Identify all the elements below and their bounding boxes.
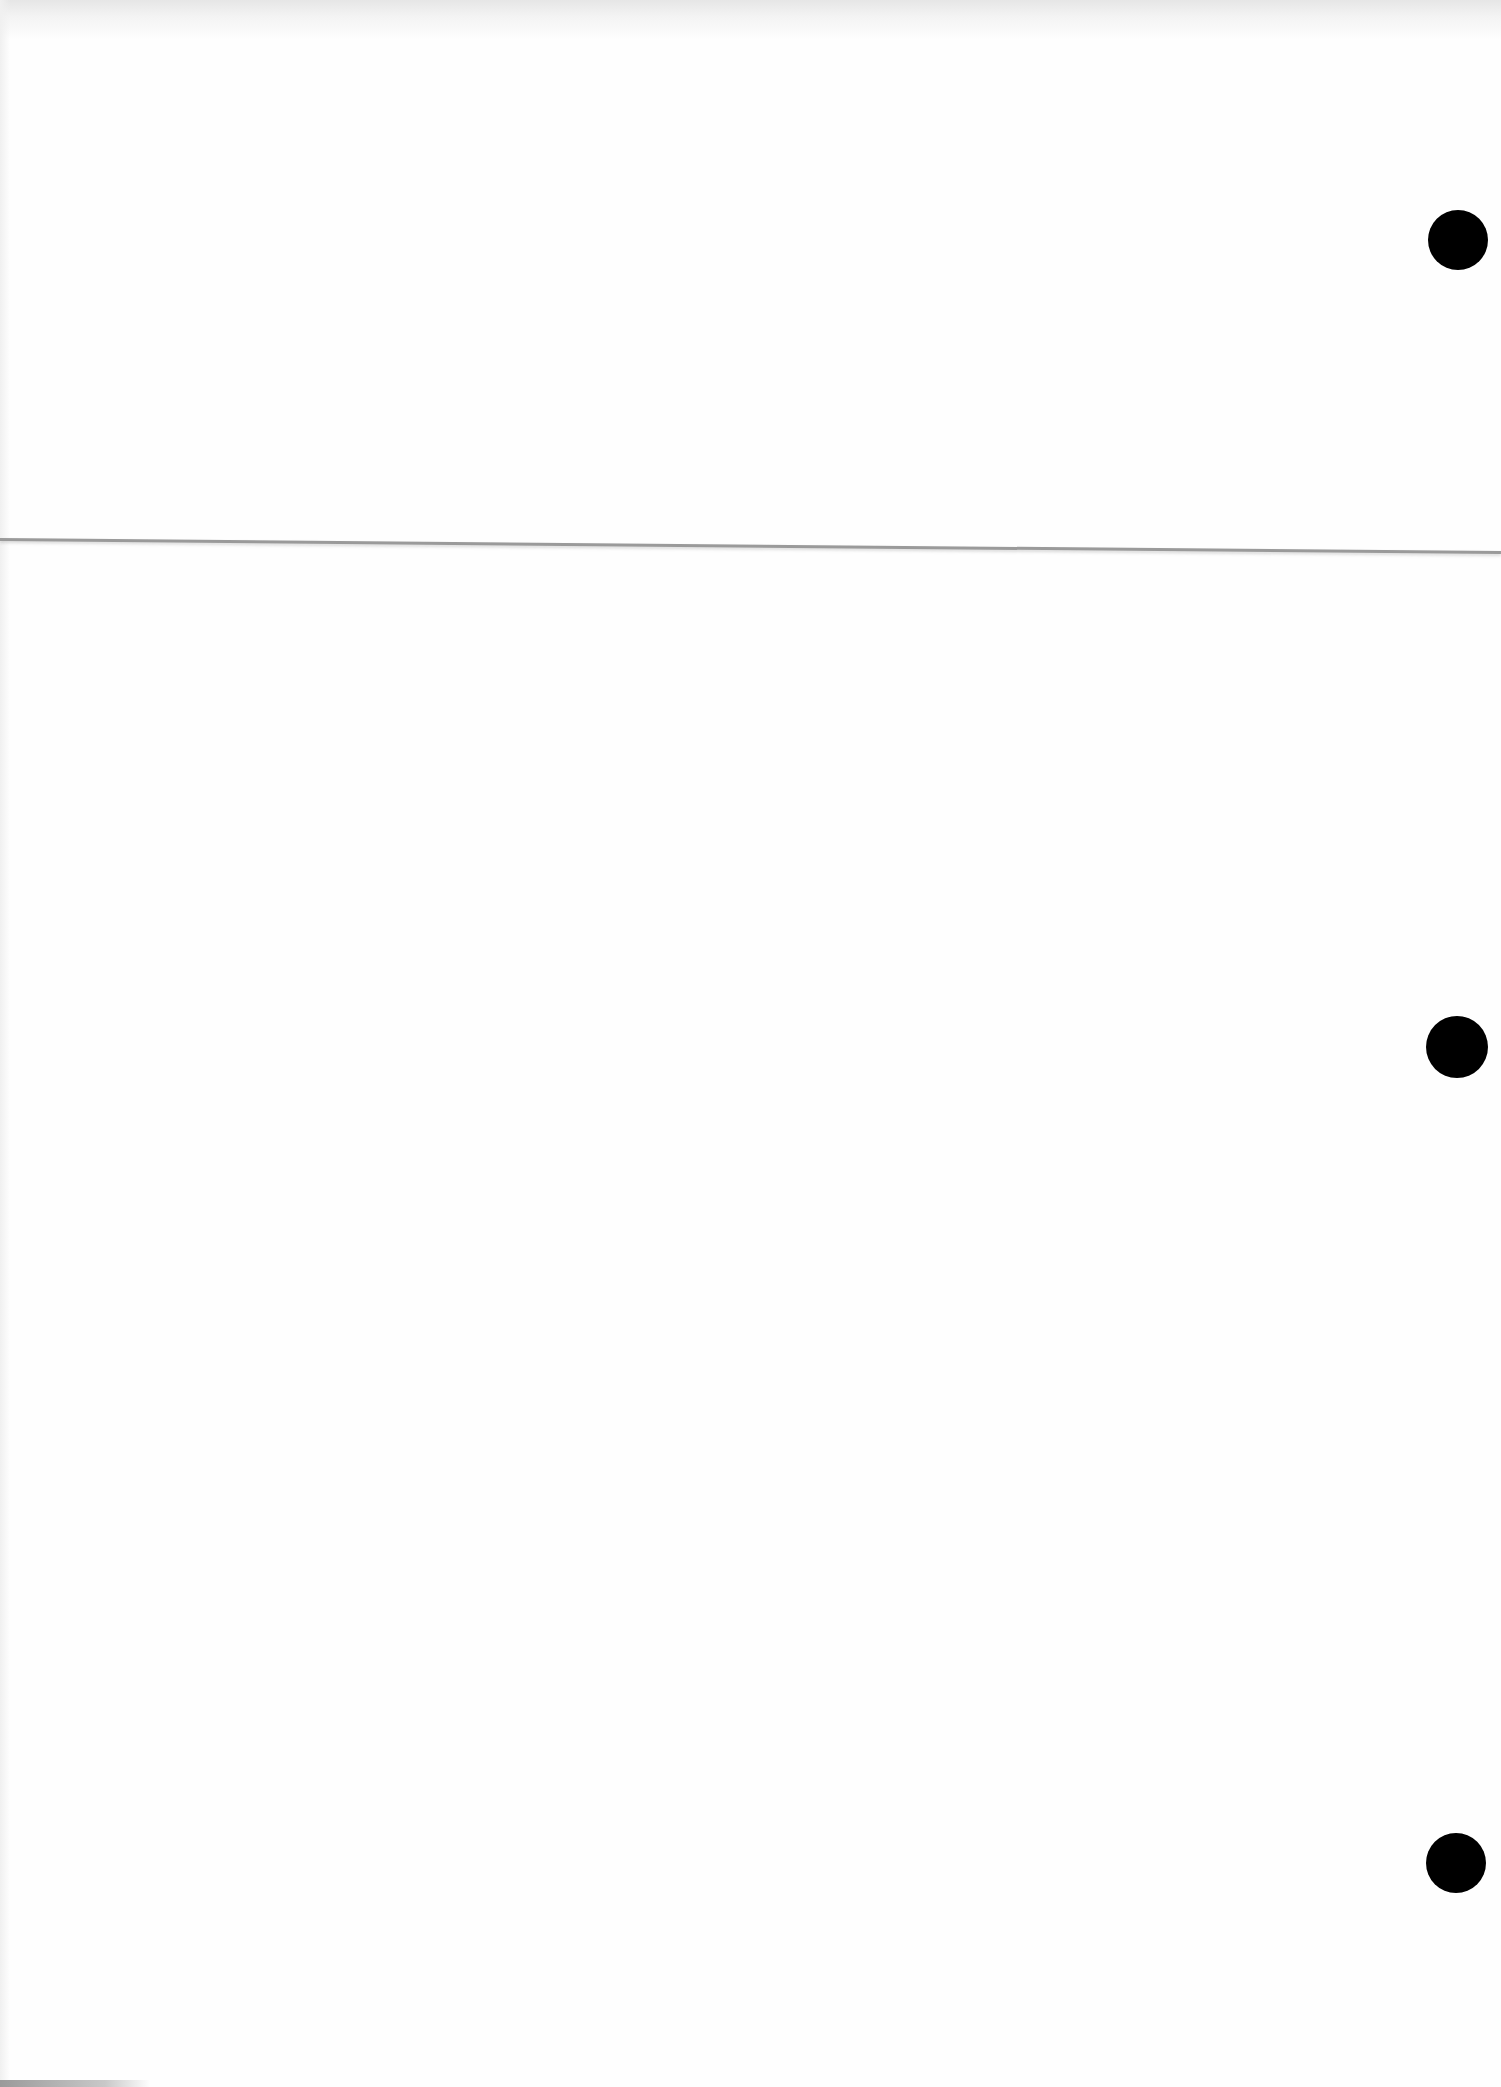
scan-top-edge-shadow	[0, 0, 1501, 40]
scan-bottom-edge-smudge	[0, 2080, 150, 2087]
punch-hole-top	[1428, 210, 1488, 270]
punch-hole-middle	[1426, 1016, 1488, 1078]
blank-page	[0, 0, 1501, 2087]
scan-left-edge-shadow	[0, 0, 10, 2087]
fold-line	[0, 538, 1501, 554]
punch-hole-bottom	[1426, 1833, 1486, 1893]
